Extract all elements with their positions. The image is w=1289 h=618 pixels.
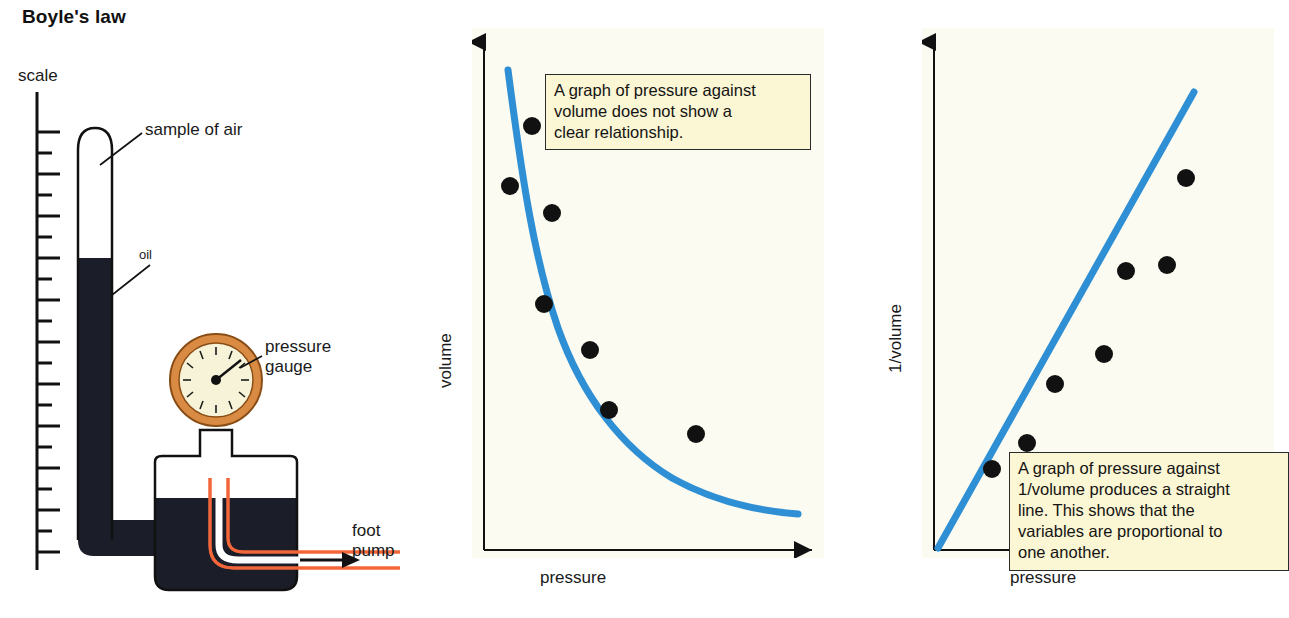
foot-pump-arrow: [300, 552, 360, 568]
scale-ruler: [37, 92, 60, 570]
x-axis-label-piv: pressure: [1010, 568, 1076, 588]
data-points-piv: [983, 169, 1195, 478]
annotation-box-pressure-inverse-volume: A graph of pressure against 1/volume pro…: [1009, 452, 1289, 571]
foot-pump-label: foot pump: [352, 521, 395, 560]
pressure-gauge-icon: [170, 334, 262, 426]
sample-of-air-label: sample of air: [145, 120, 242, 140]
pressure-gauge-label: pressure gauge: [265, 337, 331, 376]
scale-label: scale: [18, 66, 58, 86]
annotation-box-pressure-volume: A graph of pressure against volume does …: [545, 74, 811, 150]
apparatus-diagram: scale sample of air oil pressure gauge f…: [0, 0, 420, 618]
y-axis-label-pv: volume: [436, 333, 456, 388]
y-axis-label-piv: 1/volume: [886, 304, 906, 373]
leader-lines: [100, 133, 262, 368]
oil-label: oil: [139, 248, 152, 263]
x-axis-label-pv: pressure: [540, 568, 606, 588]
data-points-pv: [501, 117, 705, 443]
